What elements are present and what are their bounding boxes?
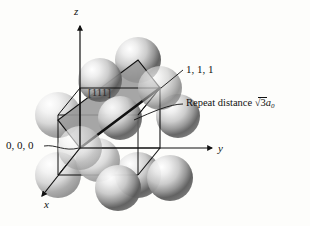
x-axis-label: x	[44, 199, 49, 210]
atom-sphere	[138, 66, 182, 110]
y-axis-label: y	[218, 143, 223, 154]
origin-coordinate-label: 0, 0, 0	[6, 140, 34, 151]
radicand: 3	[261, 97, 266, 108]
repeat-distance-label: Repeat distance √3a0	[186, 98, 275, 110]
z-axis-label: z	[74, 6, 78, 17]
square-root-icon: √3	[255, 98, 266, 109]
atom-sphere	[95, 165, 141, 211]
corner-coordinate-label: 1, 1, 1	[186, 64, 214, 75]
unit-cell-figure	[0, 0, 310, 226]
atom-sphere	[147, 155, 193, 201]
lattice-parameter-subscript: 0	[271, 102, 275, 110]
repeat-distance-text: Repeat distance	[186, 97, 252, 108]
direction-index-label: [111]	[88, 87, 111, 98]
